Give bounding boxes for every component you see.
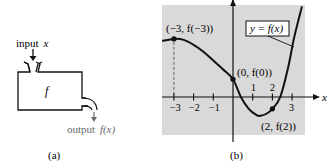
tick-label-2: 2 [270, 82, 275, 93]
figure: input x f output f(x) (a) x [0, 0, 336, 165]
tick-label-neg2: −2 [189, 102, 200, 113]
input-arrow-icon [30, 49, 37, 61]
point-label-neg3: (−3, f(−3)) [166, 22, 214, 35]
function-machine-diagram: input x f output f(x) (a) [16, 37, 115, 162]
marked-point-2 [270, 106, 275, 111]
tick-label-neg1: −1 [209, 102, 220, 113]
caption-b: (b) [230, 149, 243, 162]
point-label-0: (0, f(0)) [237, 66, 272, 79]
output-label: output f(x) [67, 123, 115, 136]
marked-point-0 [230, 77, 235, 82]
tick-label-neg3: −3 [170, 102, 181, 113]
x-axis-arrow-icon [313, 94, 320, 100]
input-label: input x [16, 37, 48, 49]
tick-label-3: 3 [289, 102, 294, 113]
caption-a: (a) [48, 149, 61, 162]
marked-point-neg3 [171, 36, 176, 41]
output-spout [82, 98, 97, 110]
graph-panel: x −3 −2 −1 3 1 2 (−3, f(−3)) (0, f(0)) (… [162, 0, 327, 162]
tick-label-1: 1 [251, 82, 256, 93]
function-label: f [45, 84, 50, 98]
x-axis-label: x [321, 91, 327, 103]
curve-legend-label: y = f(x) [249, 22, 283, 35]
output-arrow-icon [91, 112, 97, 122]
y-axis-arrow-icon [230, 0, 236, 6]
machine-box [18, 62, 88, 110]
point-label-2: (2, f(2)) [261, 120, 296, 133]
